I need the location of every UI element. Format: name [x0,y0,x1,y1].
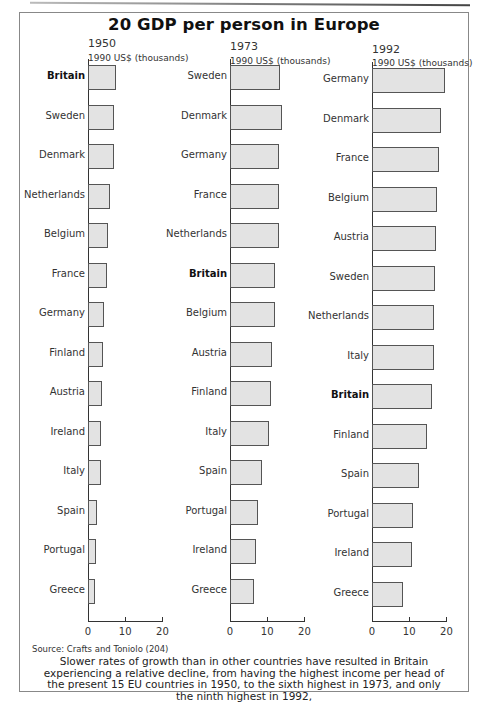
bar [372,226,436,251]
x-axis-tick-label: 0 [360,626,384,637]
bar [372,503,413,528]
bar-row: Germany [230,144,304,170]
category-label: Finland [333,429,372,440]
x-axis-tick [304,617,305,622]
bar [230,342,272,367]
x-axis-tick-label: 20 [292,626,316,637]
bar-row: Denmark [88,144,162,170]
category-label: Austria [334,231,372,242]
bar-row: France [230,184,304,210]
bar-row: Germany [88,302,162,328]
bar-row: Austria [230,342,304,368]
bar-row: Britain [372,384,446,410]
category-label: Belgium [328,192,372,203]
bar-row: Austria [88,381,162,407]
bar [230,263,275,288]
bar [230,184,279,209]
x-axis-tick [88,617,89,622]
category-label: Netherlands [166,228,230,239]
bar-row: Greece [372,582,446,608]
bar [230,460,262,485]
bar-row: Austria [372,226,446,252]
figure-frame: 20 GDP per person in Europe 1950 1990 US… [19,12,469,692]
bar [230,579,254,604]
bar [88,184,110,209]
bar [372,187,437,212]
bar [372,68,445,93]
x-axis-tick [230,617,231,622]
bar [230,105,282,130]
bar-row: Italy [372,345,446,371]
bar [230,144,279,169]
x-axis-tick-label: 20 [434,626,458,637]
bar-row: Netherlands [88,184,162,210]
category-label: France [52,268,88,279]
bar-row: Italy [230,421,304,447]
bar-row: Belgium [230,302,304,328]
category-label: Ireland [192,544,230,555]
bar [230,381,271,406]
bar [372,463,419,488]
category-label: Portugal [44,544,88,555]
x-axis-tick [372,617,373,622]
category-label: Netherlands [24,189,88,200]
bar [88,302,104,327]
bar-row: Greece [230,579,304,605]
bar [372,345,434,370]
x-axis-tick [446,617,447,622]
figure-caption: Slower rates of growth than in other cou… [40,656,448,702]
category-label: Spain [57,505,88,516]
category-label: Belgium [44,228,88,239]
category-label: Greece [333,587,372,598]
bar-row: Belgium [88,223,162,249]
category-label: Sweden [45,110,88,121]
bar-row: Spain [372,463,446,489]
bar-row: Portugal [372,503,446,529]
bar-row: Finland [230,381,304,407]
category-label: Spain [199,465,230,476]
bar [372,108,441,133]
x-axis-tick-label: 0 [218,626,242,637]
bar [88,421,101,446]
category-label: Spain [341,468,372,479]
x-axis-tick [409,617,410,622]
category-label: Portugal [186,505,230,516]
category-label: Britain [331,389,372,400]
bar-row: Portugal [230,500,304,526]
category-label: Denmark [323,113,372,124]
bar [230,223,279,248]
bar [230,302,275,327]
bar [372,424,427,449]
category-label: Germany [39,307,88,318]
x-axis-tick-label: 0 [76,626,100,637]
bar [372,542,412,567]
category-label: Sweden [329,271,372,282]
bar-row: Belgium [372,187,446,213]
category-label: Greece [49,584,88,595]
bar-row: Finland [88,342,162,368]
panel-year: 1992 [372,43,400,56]
bar-row: Spain [88,500,162,526]
bar [230,539,256,564]
bar [372,305,434,330]
bar-row: Britain [88,65,162,91]
bar [88,223,108,248]
bar [88,105,114,130]
bar [88,381,102,406]
bar [372,384,432,409]
x-axis-tick-label: 10 [255,626,279,637]
bar-row: Ireland [230,539,304,565]
bar [88,342,103,367]
bar-row: Finland [372,424,446,450]
bar [372,582,403,607]
bar-row: Denmark [372,108,446,134]
bar-row: Greece [88,579,162,605]
x-axis-tick-label: 20 [150,626,174,637]
bar [230,421,269,446]
category-label: Sweden [187,70,230,81]
bar-row: France [372,147,446,173]
category-label: France [194,189,230,200]
bar [88,460,101,485]
x-axis-tick [267,617,268,622]
bar [88,263,107,288]
